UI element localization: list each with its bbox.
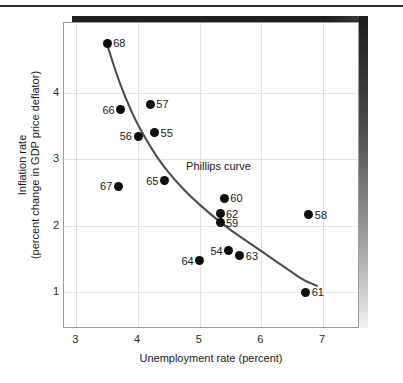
- figure-top-rule: [0, 5, 403, 7]
- data-point: [134, 132, 143, 141]
- data-point: [216, 218, 225, 227]
- phillips-curve-line: [64, 23, 360, 329]
- y-axis-title-line2: (percent change in GDP price deflator): [29, 40, 42, 290]
- data-point: [146, 100, 155, 109]
- x-axis-tick-label: 7: [310, 333, 334, 345]
- data-point-label: 58: [315, 209, 327, 221]
- data-point-label: 55: [161, 127, 173, 139]
- data-point-label: 61: [312, 286, 324, 298]
- data-point: [103, 39, 112, 48]
- data-point-label: 65: [146, 175, 158, 187]
- x-axis-tick-label: 6: [248, 333, 272, 345]
- phillips-curve-figure: 686657565567656062595854636461 Phillips …: [0, 0, 403, 383]
- data-point-label: 57: [156, 98, 168, 110]
- curve-annotation-label: Phillips curve: [186, 160, 251, 172]
- data-point-label: 68: [113, 37, 125, 49]
- data-point-label: 66: [102, 104, 114, 116]
- plot-area: 686657565567656062595854636461 Phillips …: [63, 22, 359, 328]
- x-axis-tick-label: 4: [125, 333, 149, 345]
- plot-shadow-right: [359, 16, 368, 328]
- x-axis-ticks: 34567: [63, 333, 359, 349]
- data-point-label: 56: [120, 130, 132, 142]
- data-point-label: 67: [100, 180, 112, 192]
- data-point: [220, 194, 229, 203]
- data-point-label: 60: [230, 192, 242, 204]
- data-point-label: 63: [246, 250, 258, 262]
- y-axis-title-line1: Inflation rate: [16, 40, 29, 290]
- x-axis-title: Unemployment rate (percent): [63, 352, 359, 364]
- data-point-label: 64: [181, 255, 193, 267]
- y-axis-title: Inflation rate (percent change in GDP pr…: [16, 40, 42, 290]
- x-axis-tick-label: 5: [187, 333, 211, 345]
- data-point-label: 59: [226, 217, 238, 229]
- data-point-label: 54: [210, 245, 222, 257]
- data-point: [114, 182, 123, 191]
- data-point: [216, 209, 225, 218]
- x-axis-tick-label: 3: [63, 333, 87, 345]
